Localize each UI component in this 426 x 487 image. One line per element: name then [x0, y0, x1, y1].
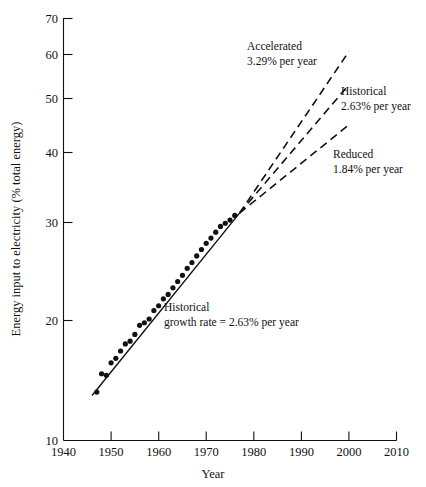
data-point — [166, 292, 171, 297]
y-axis-title: Energy input to electricity (% total ene… — [9, 122, 23, 337]
data-point — [137, 323, 142, 328]
annotation-historical-title: Historical — [341, 85, 386, 97]
data-point — [218, 224, 223, 229]
x-tick-label-1990: 1990 — [289, 445, 314, 459]
series-line-accelerated — [240, 51, 349, 213]
data-point — [128, 339, 133, 344]
data-point — [199, 247, 204, 252]
axis-lines — [64, 18, 397, 441]
data-point — [208, 236, 213, 241]
x-axis-title: Year — [201, 467, 225, 481]
annotation-historical: Historical 2.63% per year — [341, 85, 411, 113]
annotation-historical-rate: 2.63% per year — [341, 100, 411, 113]
annotation-reduced-rate: 1.84% per year — [333, 163, 403, 176]
x-tick-label-1960: 1960 — [146, 445, 171, 459]
data-point — [175, 279, 180, 284]
y-tick-label-50: 50 — [46, 92, 59, 106]
x-tick-label-1950: 1950 — [99, 445, 124, 459]
data-point — [180, 273, 185, 278]
annotation-reduced: Reduced 1.84% per year — [333, 148, 403, 176]
data-point — [118, 348, 123, 353]
x-tick-label-2010: 2010 — [384, 445, 409, 459]
data-point — [142, 320, 147, 325]
data-point — [108, 360, 113, 365]
x-tick-label-1980: 1980 — [241, 445, 266, 459]
y-tick-label-30: 30 — [46, 216, 59, 230]
data-point — [113, 356, 118, 361]
y-tick-label-40: 40 — [46, 146, 59, 160]
y-tick-label-60: 60 — [46, 48, 59, 62]
data-point — [151, 308, 156, 313]
x-tick-label-1970: 1970 — [194, 445, 219, 459]
x-axis-ticks — [111, 432, 396, 441]
chart-container: 70 60 50 40 30 20 10 1940 1950 1960 1970… — [0, 0, 426, 487]
data-point — [194, 253, 199, 258]
y-axis-tick-labels: 70 60 50 40 30 20 10 — [46, 12, 59, 448]
data-point — [223, 221, 228, 226]
annotation-accelerated-title: Accelerated — [247, 40, 302, 52]
data-point — [156, 303, 161, 308]
data-point — [123, 341, 128, 346]
data-point — [132, 332, 137, 337]
data-point — [147, 316, 152, 321]
data-point — [189, 260, 194, 265]
x-tick-label-2000: 2000 — [336, 445, 361, 459]
annotation-historical-growth-rate: growth rate = 2.63% per year — [164, 316, 299, 329]
y-tick-label-20: 20 — [46, 314, 59, 328]
x-tick-label-1940: 1940 — [51, 445, 76, 459]
annotation-reduced-title: Reduced — [333, 148, 373, 160]
annotation-accelerated-rate: 3.29% per year — [247, 55, 317, 68]
annotation-historical-growth: Historical growth rate = 2.63% per year — [164, 301, 299, 329]
data-point — [185, 266, 190, 271]
x-axis-tick-labels: 1940 1950 1960 1970 1980 1990 2000 2010 — [51, 445, 409, 459]
data-point — [170, 285, 175, 290]
annotation-accelerated: Accelerated 3.29% per year — [247, 40, 317, 68]
annotation-historical-growth-title: Historical — [164, 301, 209, 313]
y-tick-label-70: 70 — [46, 12, 59, 26]
energy-electricity-chart: 70 60 50 40 30 20 10 1940 1950 1960 1970… — [0, 0, 426, 487]
data-point — [213, 230, 218, 235]
data-point — [99, 371, 104, 376]
data-series-layer — [92, 51, 349, 395]
data-point — [204, 241, 209, 246]
y-axis-ticks — [64, 19, 73, 321]
